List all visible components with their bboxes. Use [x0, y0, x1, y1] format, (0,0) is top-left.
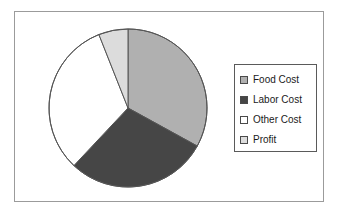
legend-item-other-cost[interactable]: Other Cost	[240, 110, 312, 130]
legend-label-food-cost: Food Cost	[253, 75, 299, 85]
pie-chart-image: Food Cost Labor Cost Other Cost Profit	[0, 0, 340, 217]
legend-swatch-other-cost	[240, 116, 248, 124]
legend-swatch-labor-cost	[240, 96, 248, 104]
legend-item-food-cost[interactable]: Food Cost	[240, 70, 312, 90]
legend-item-profit[interactable]: Profit	[240, 130, 312, 150]
legend: Food Cost Labor Cost Other Cost Profit	[234, 64, 317, 152]
legend-label-profit: Profit	[253, 135, 276, 145]
legend-label-labor-cost: Labor Cost	[253, 95, 302, 105]
legend-swatch-food-cost	[240, 76, 248, 84]
legend-swatch-profit	[240, 136, 248, 144]
legend-item-labor-cost[interactable]: Labor Cost	[240, 90, 312, 110]
legend-label-other-cost: Other Cost	[253, 115, 301, 125]
pie-slice-group	[49, 29, 207, 187]
